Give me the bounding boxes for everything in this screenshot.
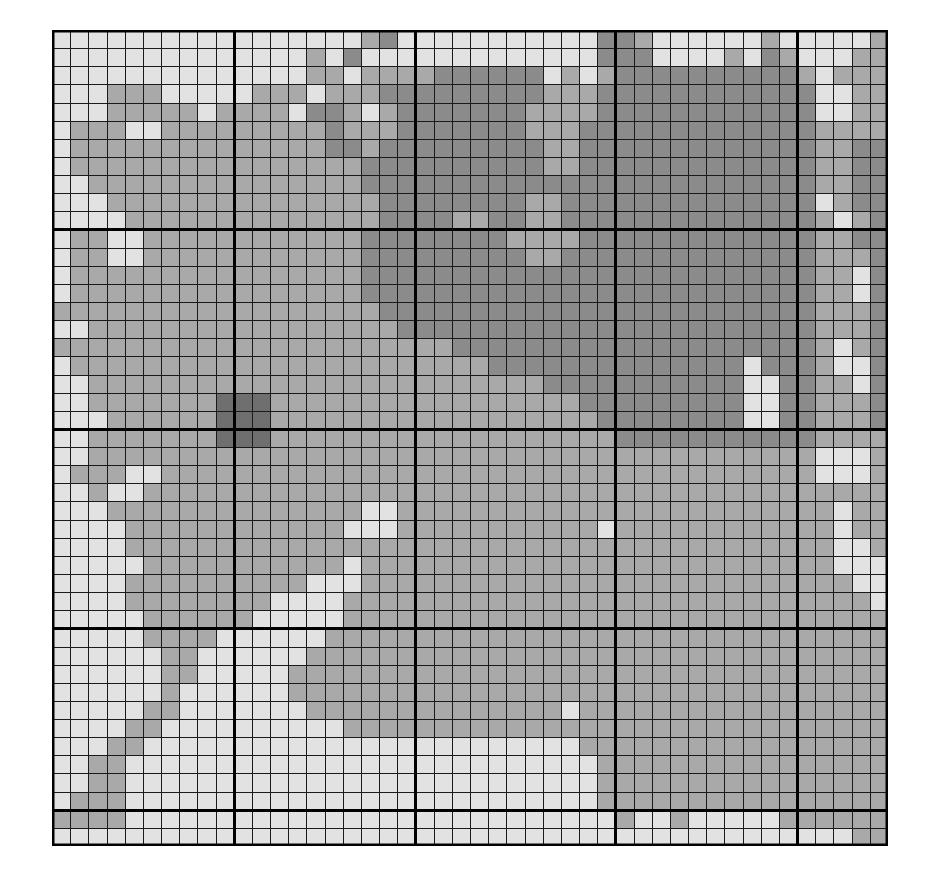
heatmap-matrix <box>52 30 888 846</box>
figure-page <box>0 0 936 896</box>
heatmap-canvas <box>52 30 888 846</box>
